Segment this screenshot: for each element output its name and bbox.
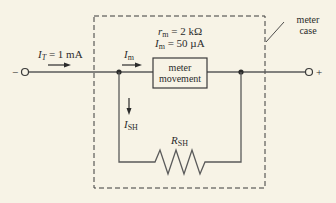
negative-terminal[interactable] [22,69,29,76]
arrow-right-icon [48,63,71,68]
meter-resistance-label: rm = 2 kΩ [158,25,202,37]
arrow-down-icon [127,98,132,115]
meter-case-label: meter case [290,14,326,36]
meter-case-pointer [266,22,284,42]
source-current-label: IT = 1 mA [38,48,83,60]
positive-terminal[interactable] [306,69,313,76]
arrow-right-icon [122,63,142,68]
meter-movement-label: meter movement [153,58,207,88]
meter-current-label: Im [124,48,134,60]
negative-terminal-label: − [12,66,18,78]
shunt-current-label: ISH [124,118,138,130]
shunt-resistor-label: RSH [171,134,188,146]
meter-rated-current-label: Im = 50 µA [155,37,205,49]
positive-terminal-label: + [316,66,322,78]
